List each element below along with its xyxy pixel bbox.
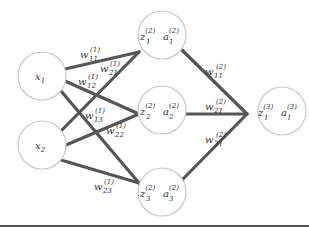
node-sub-z1-2: 1 bbox=[146, 38, 150, 46]
svg-text:w: w bbox=[205, 101, 214, 112]
neural-network-diagram: x1 x2 z(2) 1 a(2) 1 z(2) 2 a(2) 2 z(2) 3… bbox=[0, 0, 309, 227]
weight-labels-layer-2: (2) w 11 (2) w 21 (2) w 31 bbox=[205, 63, 226, 148]
svg-text:w: w bbox=[205, 134, 214, 145]
svg-text:22: 22 bbox=[114, 131, 124, 139]
edge-x1-h3 bbox=[61, 91, 139, 183]
svg-text:13: 13 bbox=[94, 116, 103, 124]
input-node-x1: x1 bbox=[18, 52, 66, 100]
bottom-divider bbox=[0, 225, 309, 227]
svg-text:23: 23 bbox=[102, 187, 112, 195]
svg-text:(1): (1) bbox=[88, 73, 98, 81]
hidden-node-3: z(2) 3 a(2) 3 bbox=[138, 168, 186, 216]
weight-label-w22-1: (1) w 22 bbox=[106, 122, 126, 139]
svg-text:w: w bbox=[100, 63, 109, 74]
svg-text:12: 12 bbox=[87, 82, 96, 90]
svg-text:31: 31 bbox=[214, 140, 223, 148]
svg-text:(2): (2) bbox=[216, 63, 226, 71]
node-sub-z3-2: 3 bbox=[146, 195, 151, 203]
svg-text:21: 21 bbox=[108, 69, 118, 77]
node-sub-z1-3: 1 bbox=[264, 114, 268, 122]
svg-text:(1): (1) bbox=[104, 178, 114, 186]
svg-text:w: w bbox=[78, 76, 87, 87]
hidden-node-1: z(2) 1 a(2) 1 bbox=[138, 11, 186, 59]
weight-label-w23-1: (1) w 23 bbox=[94, 178, 114, 195]
node-sub-a2-2: 2 bbox=[168, 113, 174, 121]
node-sub-z2-2: 2 bbox=[145, 113, 151, 121]
svg-text:w: w bbox=[80, 49, 89, 60]
svg-text:(1): (1) bbox=[116, 122, 126, 130]
edges-layer-2 bbox=[182, 50, 247, 180]
hidden-node-2: z(2) 2 a(2) 2 bbox=[138, 86, 186, 134]
weight-label-w11-1: (1) w 11 bbox=[80, 46, 100, 63]
svg-text:w: w bbox=[205, 66, 214, 77]
svg-text:w: w bbox=[94, 181, 103, 192]
node-sub-a1-2: 1 bbox=[169, 38, 173, 46]
svg-text:(1): (1) bbox=[90, 46, 100, 54]
svg-text:w: w bbox=[85, 110, 94, 121]
node-sub-a1-3: 1 bbox=[287, 114, 291, 122]
output-node-1: z(3) 1 a(3) 1 bbox=[257, 87, 306, 135]
node-sub-a3-2: 3 bbox=[169, 195, 174, 203]
svg-text:(2): (2) bbox=[216, 131, 226, 139]
svg-text:(1): (1) bbox=[110, 60, 120, 68]
svg-text:(1): (1) bbox=[95, 107, 105, 115]
svg-text:11: 11 bbox=[89, 55, 98, 63]
input-node-x2: x2 bbox=[18, 121, 66, 169]
weight-label-w21-1: (1) w 21 bbox=[100, 60, 120, 77]
edge-h1-o1 bbox=[182, 50, 247, 114]
svg-text:21: 21 bbox=[213, 107, 223, 115]
svg-text:11: 11 bbox=[214, 72, 223, 80]
svg-text:(2): (2) bbox=[216, 98, 226, 106]
svg-text:w: w bbox=[106, 125, 115, 136]
